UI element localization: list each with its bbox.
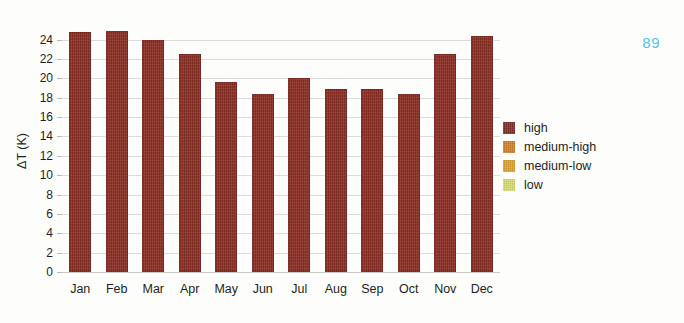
- x-axis-tick-label: Feb: [106, 282, 128, 296]
- x-axis-tick-label: Dec: [471, 282, 493, 296]
- legend-item[interactable]: medium-low: [503, 156, 596, 175]
- legend-label: medium-low: [524, 159, 591, 173]
- y-axis-tick-label: 6: [46, 207, 53, 221]
- bar: [288, 78, 310, 272]
- chart-legend: highmedium-highmedium-lowlow: [503, 118, 596, 194]
- legend-swatch-icon: [503, 179, 515, 191]
- y-axis-tick-label: 18: [40, 91, 53, 105]
- plot-area: 024681012141618202224: [62, 30, 500, 272]
- legend-item[interactable]: medium-high: [503, 137, 596, 156]
- y-axis-tick-label: 4: [46, 226, 53, 240]
- x-axis-tick-label: Mar: [142, 282, 164, 296]
- bar: [471, 36, 493, 272]
- y-axis-tick-label: 0: [46, 265, 53, 279]
- y-axis-tick-label: 20: [40, 71, 53, 85]
- y-axis-tick-label: 12: [40, 149, 53, 163]
- y-axis-tick-label: 24: [40, 33, 53, 47]
- legend-label: low: [524, 178, 543, 192]
- x-axis-tick-label: Aug: [325, 282, 347, 296]
- legend-label: high: [524, 121, 548, 135]
- bar: [106, 31, 128, 272]
- y-axis-label: ΔT (K): [15, 133, 29, 169]
- bar-chart: ΔT (K) 024681012141618202224 JanFebMarAp…: [0, 0, 684, 323]
- bar: [398, 94, 420, 272]
- y-axis-tick-label: 10: [40, 168, 53, 182]
- bar: [434, 54, 456, 272]
- bar: [142, 40, 164, 272]
- x-axis-tick-label: Sep: [361, 282, 383, 296]
- bar: [215, 82, 237, 272]
- y-axis-tick-label: 22: [40, 52, 53, 66]
- bar: [252, 94, 274, 272]
- bar: [179, 54, 201, 272]
- x-axis-tick-label: Apr: [180, 282, 199, 296]
- bar: [69, 32, 91, 272]
- y-axis-tick-label: 2: [46, 246, 53, 260]
- x-axis-tick-label: Jan: [70, 282, 90, 296]
- bar: [325, 89, 347, 272]
- bar-series-high: [62, 30, 500, 272]
- gridline: [62, 272, 500, 273]
- y-axis-tick-label: 14: [40, 129, 53, 143]
- x-axis-tick-label: Jul: [291, 282, 307, 296]
- bar: [361, 89, 383, 272]
- legend-item[interactable]: high: [503, 118, 596, 137]
- y-axis-tick-label: 16: [40, 110, 53, 124]
- x-axis-tick-label: Nov: [434, 282, 456, 296]
- page-canvas: 89 ΔT (K) 024681012141618202224 JanFebMa…: [0, 0, 684, 323]
- x-axis-tick-label: Oct: [399, 282, 418, 296]
- legend-label: medium-high: [524, 140, 596, 154]
- x-axis-tick-label: May: [214, 282, 238, 296]
- y-axis-tick-label: 8: [46, 188, 53, 202]
- y-axis-tick: [57, 272, 62, 273]
- x-axis-tick-label: Jun: [253, 282, 273, 296]
- legend-swatch-icon: [503, 141, 515, 153]
- legend-swatch-icon: [503, 122, 515, 134]
- legend-item[interactable]: low: [503, 175, 596, 194]
- legend-swatch-icon: [503, 160, 515, 172]
